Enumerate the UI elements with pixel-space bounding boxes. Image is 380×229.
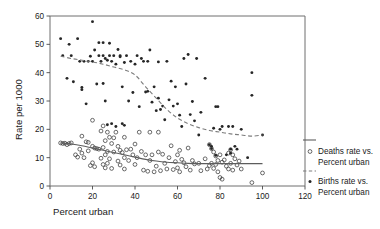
legend-entry-births[interactable]: Births rate vs. Percent urban xyxy=(303,171,370,197)
births-point xyxy=(138,105,141,108)
deaths-point xyxy=(105,130,109,134)
births-point xyxy=(102,82,105,85)
births-point xyxy=(110,122,113,125)
births-point xyxy=(106,59,109,62)
y-tick-label-50: 50 xyxy=(35,40,45,49)
deaths-point xyxy=(250,181,254,185)
deaths-point xyxy=(133,142,137,146)
x-axis-tick-labels: 020406080100120 xyxy=(48,192,313,201)
deaths-point xyxy=(127,159,131,163)
scatter-chart-figure: 020406080100120 0102030405060 Percent ur… xyxy=(0,0,380,229)
deaths-point xyxy=(103,139,107,143)
births-point xyxy=(180,125,183,128)
legend-entry-deaths[interactable]: Deaths rate vs. Percent urban xyxy=(303,140,373,167)
deaths-point xyxy=(186,146,190,150)
births-point xyxy=(146,60,149,63)
deaths-point xyxy=(142,168,146,172)
births-point xyxy=(229,152,232,155)
plot-frame-border xyxy=(50,16,305,186)
legend-deaths-label-line1: Deaths rate vs. xyxy=(318,147,373,156)
deaths-point xyxy=(165,167,169,171)
y-tick-label-60: 60 xyxy=(35,12,45,21)
deaths-point xyxy=(169,144,173,148)
deaths-point xyxy=(108,135,112,139)
deaths-point xyxy=(159,169,163,173)
deaths-point xyxy=(176,153,180,157)
births-point xyxy=(236,148,239,151)
deaths-point xyxy=(139,150,143,154)
deaths-point xyxy=(112,136,116,140)
y-axis-title: Rate per 1000 xyxy=(13,79,24,140)
births-point xyxy=(114,63,117,66)
deaths-point xyxy=(122,167,126,171)
births-point xyxy=(157,97,160,100)
births-point xyxy=(159,108,162,111)
deaths-point xyxy=(167,156,171,160)
deaths-point xyxy=(122,135,126,139)
deaths-point xyxy=(93,165,97,169)
legend: Deaths rate vs. Percent urban Births rat… xyxy=(303,140,373,197)
births-point xyxy=(134,63,137,66)
legend-open-circle-icon xyxy=(308,150,312,154)
births-point xyxy=(219,128,222,131)
births-point xyxy=(195,57,198,60)
births-point xyxy=(97,54,100,57)
births-point xyxy=(225,153,228,156)
births-point xyxy=(185,83,188,86)
births-point xyxy=(102,41,105,44)
births-point xyxy=(123,124,126,127)
deaths-point xyxy=(218,153,222,157)
births-point xyxy=(117,48,120,51)
births-point xyxy=(102,54,105,57)
deaths-point xyxy=(178,148,182,152)
births-point xyxy=(212,127,215,130)
plot-frame xyxy=(50,16,305,186)
x-tick-label-100: 100 xyxy=(256,192,270,201)
deaths-point xyxy=(133,163,137,167)
deaths-point xyxy=(116,144,120,148)
births-point xyxy=(197,134,200,137)
deaths-point xyxy=(80,134,84,138)
legend-births-label-line2: Percent urban xyxy=(318,188,370,197)
chart-canvas: 020406080100120 0102030405060 Percent ur… xyxy=(0,0,380,229)
births-point xyxy=(108,42,111,45)
births-point xyxy=(68,43,71,46)
births-point xyxy=(140,57,143,60)
deaths-point xyxy=(212,150,216,154)
births-point xyxy=(59,37,62,40)
deaths-point xyxy=(86,149,90,153)
births-point xyxy=(191,100,194,103)
births-point xyxy=(250,94,253,97)
births-point xyxy=(250,71,253,74)
deaths-point xyxy=(171,168,175,172)
deaths-point xyxy=(122,156,126,160)
births-point xyxy=(66,77,69,80)
births-point xyxy=(104,100,107,103)
deaths-rate-points xyxy=(59,118,265,184)
deaths-point xyxy=(82,156,86,160)
deaths-point xyxy=(110,142,114,146)
deaths-point xyxy=(184,165,188,169)
x-tick-label-60: 60 xyxy=(173,192,183,201)
births-point xyxy=(110,60,113,63)
births-point xyxy=(199,111,202,114)
deaths-point xyxy=(150,153,154,157)
deaths-point xyxy=(154,164,158,168)
births-point xyxy=(70,54,73,57)
x-tick-label-20: 20 xyxy=(88,192,98,201)
deaths-point xyxy=(156,150,160,154)
deaths-point xyxy=(233,157,237,161)
deaths-point xyxy=(156,130,160,134)
deaths-point xyxy=(207,164,211,168)
births-point xyxy=(142,60,145,63)
deaths-point xyxy=(78,147,82,151)
births-point xyxy=(231,125,234,128)
births-point xyxy=(131,91,134,94)
deaths-point xyxy=(110,167,114,171)
births-rate-trend-line xyxy=(61,56,263,136)
deaths-point xyxy=(103,166,107,170)
deaths-point xyxy=(146,169,150,173)
births-point xyxy=(155,109,158,112)
births-point xyxy=(221,125,224,128)
deaths-point xyxy=(261,171,265,175)
